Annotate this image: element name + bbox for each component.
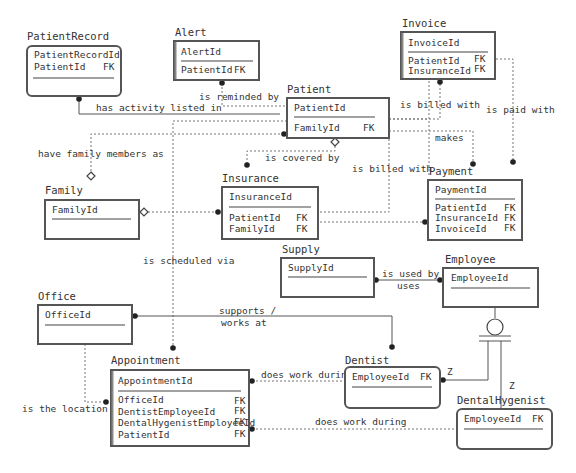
svg-text:Invoice: Invoice bbox=[402, 17, 446, 29]
entity-alert[interactable]: Alert AlertId PatientId FK bbox=[174, 26, 259, 80]
svg-text:Patient: Patient bbox=[287, 83, 331, 95]
mandatory-dot-icon bbox=[76, 96, 82, 102]
svg-text:AppointmentId: AppointmentId bbox=[118, 375, 192, 386]
mandatory-dot-icon bbox=[422, 219, 428, 225]
svg-text:Dentist: Dentist bbox=[345, 354, 389, 366]
svg-text:PatientRecordId: PatientRecordId bbox=[34, 49, 120, 60]
mandatory-dot-icon bbox=[389, 344, 395, 350]
mandatory-dot-icon bbox=[132, 313, 138, 319]
svg-text:InsuranceId: InsuranceId bbox=[435, 212, 498, 223]
mandatory-dot-icon bbox=[510, 159, 516, 165]
svg-text:FK: FK bbox=[504, 222, 516, 233]
svg-text:FK: FK bbox=[234, 405, 246, 416]
svg-text:supports /: supports / bbox=[219, 305, 276, 316]
rel-office-dentist: supports / works at bbox=[132, 305, 395, 350]
rel-dentist-appointment: does work during bbox=[249, 369, 352, 384]
svg-text:Z: Z bbox=[509, 380, 515, 391]
svg-text:has activity listed in: has activity listed in bbox=[96, 102, 222, 113]
rel-supply-employee: is used by / uses bbox=[373, 268, 450, 291]
svg-text:is covered by: is covered by bbox=[265, 152, 340, 163]
svg-text:is reminded by: is reminded by bbox=[199, 91, 279, 102]
mandatory-dot-icon bbox=[437, 79, 443, 85]
svg-text:FK: FK bbox=[532, 413, 544, 424]
svg-text:is scheduled via: is scheduled via bbox=[143, 255, 235, 266]
svg-text:is the location of: is the location of bbox=[22, 403, 125, 414]
svg-text:DentalHygenist: DentalHygenist bbox=[457, 394, 546, 406]
svg-text:Payment: Payment bbox=[429, 165, 473, 177]
svg-text:FK: FK bbox=[363, 122, 375, 133]
entity-patientrecord[interactable]: PatientRecord PatientRecordId PatientId … bbox=[27, 30, 121, 96]
rel-patient-insurance: is covered by bbox=[244, 138, 339, 168]
svg-text:Appointment: Appointment bbox=[111, 354, 181, 366]
mandatory-dot-icon bbox=[244, 162, 250, 168]
svg-text:makes: makes bbox=[435, 132, 464, 143]
svg-text:SupplyId: SupplyId bbox=[288, 262, 334, 273]
svg-text:Family: Family bbox=[45, 184, 83, 196]
rel-family-insurance bbox=[140, 208, 221, 216]
svg-text:FK: FK bbox=[103, 61, 115, 72]
rel-office-appointment: is the location of bbox=[22, 344, 125, 414]
mandatory-dot-icon bbox=[219, 80, 225, 86]
svg-text:PatientId: PatientId bbox=[229, 212, 280, 223]
svg-text:FamilyId: FamilyId bbox=[52, 204, 98, 215]
optional-diamond-icon bbox=[140, 208, 148, 216]
svg-text:EmployeeId: EmployeeId bbox=[464, 413, 521, 424]
svg-text:Employee: Employee bbox=[445, 253, 496, 265]
svg-text:works at: works at bbox=[221, 317, 267, 328]
mandatory-dot-icon bbox=[215, 209, 221, 215]
svg-text:Z: Z bbox=[447, 366, 453, 377]
rel-patient-payment: makes bbox=[389, 131, 476, 167]
svg-text:EmployeeId: EmployeeId bbox=[352, 371, 409, 382]
entity-invoice[interactable]: Invoice InvoiceId PatientId FK Insurance… bbox=[401, 17, 495, 79]
svg-text:Office: Office bbox=[38, 290, 76, 302]
entity-dentist[interactable]: Dentist EmployeeId FK bbox=[345, 354, 440, 408]
svg-text:uses: uses bbox=[397, 280, 420, 291]
svg-text:FK: FK bbox=[234, 428, 246, 439]
rel-hygenist-appointment: does work during bbox=[249, 416, 456, 432]
svg-text:does work during: does work during bbox=[315, 416, 407, 427]
svg-text:FK: FK bbox=[296, 223, 308, 234]
svg-text:PatientId: PatientId bbox=[294, 102, 345, 113]
mandatory-dot-icon bbox=[249, 378, 255, 384]
entity-family[interactable]: Family FamilyId bbox=[45, 184, 139, 239]
entity-payment[interactable]: Payment PaymentId PatientId FK Insurance… bbox=[428, 165, 522, 240]
svg-text:does work during: does work during bbox=[261, 369, 353, 380]
svg-text:Supply: Supply bbox=[282, 243, 320, 255]
svg-text:FK: FK bbox=[474, 63, 486, 74]
svg-text:PatientRecord: PatientRecord bbox=[27, 30, 109, 42]
entity-office[interactable]: Office OfficeId bbox=[38, 290, 132, 344]
svg-text:PatientId: PatientId bbox=[118, 429, 169, 440]
svg-text:have family members as: have family members as bbox=[38, 148, 164, 159]
svg-text:InvoiceId: InvoiceId bbox=[408, 37, 459, 48]
optional-diamond-icon bbox=[87, 172, 95, 180]
entity-insurance[interactable]: Insurance InsuranceId PatientId FK Famil… bbox=[222, 172, 318, 239]
svg-text:is used by /: is used by / bbox=[382, 268, 451, 279]
entity-appointment[interactable]: Appointment AppointmentId OfficeId FK De… bbox=[111, 354, 255, 446]
svg-text:FK: FK bbox=[296, 212, 308, 223]
svg-text:Alert: Alert bbox=[175, 26, 207, 38]
svg-text:DentistEmployeeId: DentistEmployeeId bbox=[118, 406, 215, 417]
mandatory-dot-icon bbox=[170, 345, 176, 351]
entity-patient[interactable]: Patient PatientId FamilyId FK bbox=[287, 83, 389, 138]
svg-text:is billed with: is billed with bbox=[352, 163, 432, 174]
svg-text:OfficeId: OfficeId bbox=[45, 309, 91, 320]
mandatory-dot-icon bbox=[440, 377, 446, 383]
svg-text:InsuranceId: InsuranceId bbox=[229, 191, 292, 202]
svg-text:PatientId: PatientId bbox=[181, 64, 232, 75]
entity-employee[interactable]: Employee EmployeeId bbox=[443, 253, 538, 307]
svg-text:OfficeId: OfficeId bbox=[118, 394, 164, 405]
entity-supply[interactable]: Supply SupplyId bbox=[281, 243, 374, 297]
svg-text:AlertId: AlertId bbox=[181, 46, 221, 57]
rel-insurance-payment bbox=[320, 219, 428, 225]
svg-text:Insurance: Insurance bbox=[222, 172, 279, 184]
svg-text:FK: FK bbox=[234, 64, 246, 75]
svg-text:InvoiceId: InvoiceId bbox=[435, 223, 486, 234]
svg-text:is paid with: is paid with bbox=[486, 104, 555, 115]
er-diagram: has activity listed in is reminded by Ap… bbox=[0, 0, 576, 473]
svg-text:EmployeeId: EmployeeId bbox=[451, 272, 508, 283]
svg-text:PaymentId: PaymentId bbox=[435, 184, 486, 195]
svg-text:InsuranceId: InsuranceId bbox=[408, 65, 471, 76]
optional-diamond-icon bbox=[331, 138, 339, 146]
svg-text:FK: FK bbox=[234, 416, 246, 427]
entity-dentalhygenist[interactable]: DentalHygenist EmployeeId FK bbox=[457, 394, 552, 449]
